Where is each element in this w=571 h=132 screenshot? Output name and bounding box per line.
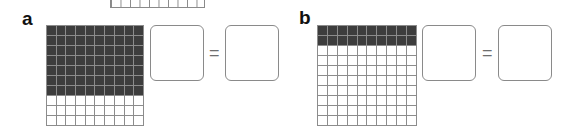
- shaded-cell: [76, 36, 85, 45]
- shaded-cell: [134, 56, 143, 65]
- shaded-cell: [125, 56, 134, 65]
- unshaded-cell: [318, 86, 327, 95]
- shaded-cell: [318, 36, 327, 45]
- unshaded-cell: [397, 86, 406, 95]
- unshaded-cell: [57, 96, 66, 105]
- unshaded-cell: [407, 116, 416, 125]
- unshaded-cell: [367, 96, 376, 105]
- unshaded-cell: [397, 76, 406, 85]
- unshaded-cell: [358, 106, 367, 115]
- shaded-cell: [115, 46, 124, 55]
- shaded-cell: [95, 46, 104, 55]
- shaded-cell: [86, 36, 95, 45]
- shaded-cell: [95, 26, 104, 35]
- shaded-cell: [66, 86, 75, 95]
- shaded-cell: [115, 26, 124, 35]
- shaded-cell: [66, 76, 75, 85]
- shaded-cell: [47, 36, 56, 45]
- unshaded-cell: [134, 116, 143, 125]
- unshaded-cell: [86, 96, 95, 105]
- unshaded-cell: [367, 76, 376, 85]
- shaded-cell: [95, 36, 104, 45]
- previous-grid-fragment: [110, 0, 205, 8]
- shaded-cell: [105, 26, 114, 35]
- shaded-cell: [348, 36, 357, 45]
- shaded-cell: [95, 76, 104, 85]
- shaded-cell: [338, 36, 347, 45]
- unshaded-cell: [328, 56, 337, 65]
- unshaded-cell: [348, 96, 357, 105]
- shaded-cell: [125, 76, 134, 85]
- unshaded-cell: [397, 116, 406, 125]
- shaded-cell: [57, 66, 66, 75]
- answer-box-a-left[interactable]: [150, 25, 204, 81]
- unshaded-cell: [86, 106, 95, 115]
- unshaded-cell: [397, 56, 406, 65]
- unshaded-cell: [407, 96, 416, 105]
- shaded-cell: [86, 76, 95, 85]
- shaded-cell: [95, 66, 104, 75]
- shaded-cell: [134, 36, 143, 45]
- shaded-cell: [328, 26, 337, 35]
- unshaded-cell: [328, 106, 337, 115]
- unshaded-cell: [358, 66, 367, 75]
- unshaded-cell: [348, 76, 357, 85]
- unshaded-cell: [318, 116, 327, 125]
- unshaded-cell: [338, 116, 347, 125]
- answer-box-b-right[interactable]: [498, 25, 552, 81]
- shaded-cell: [377, 36, 386, 45]
- unshaded-cell: [348, 116, 357, 125]
- unshaded-cell: [318, 96, 327, 105]
- shaded-cell: [76, 86, 85, 95]
- unshaded-cell: [105, 96, 114, 105]
- unshaded-cell: [358, 76, 367, 85]
- shaded-cell: [358, 26, 367, 35]
- unshaded-cell: [377, 106, 386, 115]
- unshaded-cell: [338, 76, 347, 85]
- shaded-cell: [367, 26, 376, 35]
- shaded-cell: [76, 76, 85, 85]
- unshaded-cell: [407, 66, 416, 75]
- unshaded-cell: [66, 106, 75, 115]
- unshaded-cell: [66, 116, 75, 125]
- shaded-cell: [134, 46, 143, 55]
- unshaded-cell: [407, 46, 416, 55]
- unshaded-cell: [407, 106, 416, 115]
- shaded-cell: [66, 46, 75, 55]
- unshaded-cell: [328, 76, 337, 85]
- unshaded-cell: [86, 116, 95, 125]
- shaded-cell: [318, 26, 327, 35]
- unshaded-cell: [338, 56, 347, 65]
- unshaded-cell: [134, 106, 143, 115]
- shaded-cell: [134, 76, 143, 85]
- unshaded-cell: [377, 86, 386, 95]
- shaded-cell: [47, 86, 56, 95]
- unshaded-cell: [367, 106, 376, 115]
- unshaded-cell: [407, 56, 416, 65]
- part-a-label: a: [22, 9, 33, 28]
- shaded-cell: [57, 36, 66, 45]
- unshaded-cell: [318, 76, 327, 85]
- shaded-cell: [125, 46, 134, 55]
- shaded-cell: [387, 26, 396, 35]
- unshaded-cell: [338, 96, 347, 105]
- shaded-cell: [105, 66, 114, 75]
- unshaded-cell: [387, 116, 396, 125]
- unshaded-cell: [387, 56, 396, 65]
- shaded-cell: [47, 26, 56, 35]
- shaded-cell: [66, 56, 75, 65]
- unshaded-cell: [57, 106, 66, 115]
- shaded-cell: [57, 86, 66, 95]
- answer-box-b-left[interactable]: [422, 25, 476, 81]
- answer-box-a-right[interactable]: [225, 25, 279, 81]
- shaded-cell: [377, 26, 386, 35]
- unshaded-cell: [397, 46, 406, 55]
- shaded-cell: [47, 56, 56, 65]
- unshaded-cell: [328, 96, 337, 105]
- shaded-cell: [86, 46, 95, 55]
- shaded-cell: [66, 26, 75, 35]
- part-b-label: b: [299, 8, 311, 27]
- shaded-cell: [47, 76, 56, 85]
- unshaded-cell: [377, 66, 386, 75]
- unshaded-cell: [377, 76, 386, 85]
